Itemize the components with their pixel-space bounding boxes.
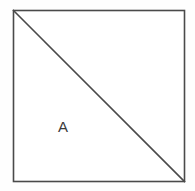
region-label-a: A (58, 119, 68, 134)
geometry-figure (0, 0, 195, 191)
figure-canvas: A (0, 0, 195, 191)
